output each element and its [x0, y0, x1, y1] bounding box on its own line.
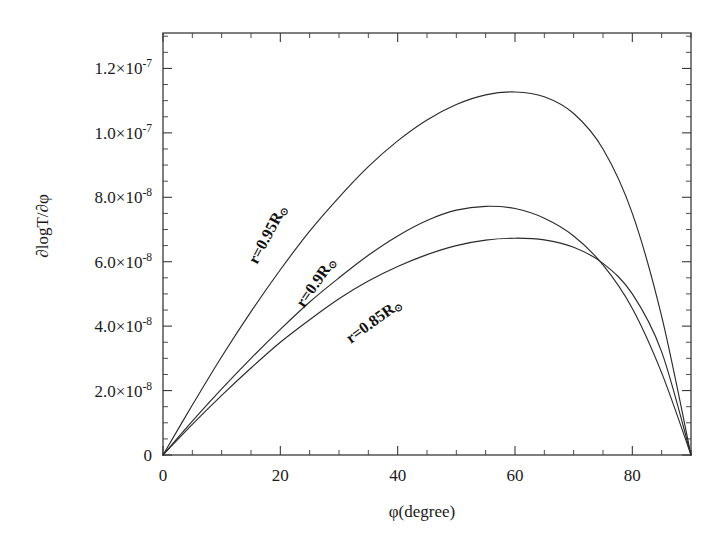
x-tick-label: 0	[159, 466, 168, 485]
x-tick-label: 80	[624, 466, 641, 485]
x-tick-label: 20	[272, 466, 289, 485]
line-chart: 02040608002.0×10-84.0×10-86.0×10-88.0×10…	[0, 0, 725, 540]
figure-canvas: 02040608002.0×10-84.0×10-86.0×10-88.0×10…	[0, 0, 725, 540]
y-tick-label: 0	[144, 446, 153, 465]
y-tick-label: 6.0×10-8	[95, 251, 153, 272]
curve-2	[163, 238, 691, 455]
y-tick-label: 1.0×10-7	[95, 122, 153, 143]
x-axis-label: φ(degree)	[389, 502, 455, 521]
x-tick-label: 40	[389, 466, 406, 485]
curve-1	[163, 206, 691, 455]
curve-0	[163, 92, 691, 455]
x-tick-label: 60	[507, 466, 524, 485]
y-tick-label: 1.2×10-7	[95, 57, 153, 78]
curve-label-0: r=0.95R⊙	[245, 202, 291, 267]
curve-label-2: r=0.85R⊙	[342, 295, 404, 347]
y-tick-label: 8.0×10-8	[95, 186, 153, 207]
y-tick-label: 4.0×10-8	[95, 315, 153, 336]
y-tick-label: 2.0×10-8	[95, 380, 153, 401]
plot-frame	[163, 33, 691, 455]
y-axis-label: ∂logT/∂φ	[33, 194, 52, 258]
